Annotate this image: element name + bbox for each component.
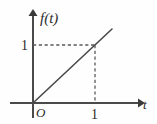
origin-label: O bbox=[36, 105, 46, 120]
line-chart-svg: f(t) t O 1 1 bbox=[0, 0, 157, 124]
y-axis-label: f(t) bbox=[40, 10, 58, 27]
function-line-ft bbox=[33, 29, 112, 103]
x-axis-label: t bbox=[143, 97, 147, 112]
y-axis-arrowhead bbox=[29, 9, 38, 16]
x-tick-label-one: 1 bbox=[91, 107, 98, 122]
y-tick-label-one: 1 bbox=[21, 38, 28, 53]
figure-container: f(t) t O 1 1 bbox=[0, 0, 157, 124]
